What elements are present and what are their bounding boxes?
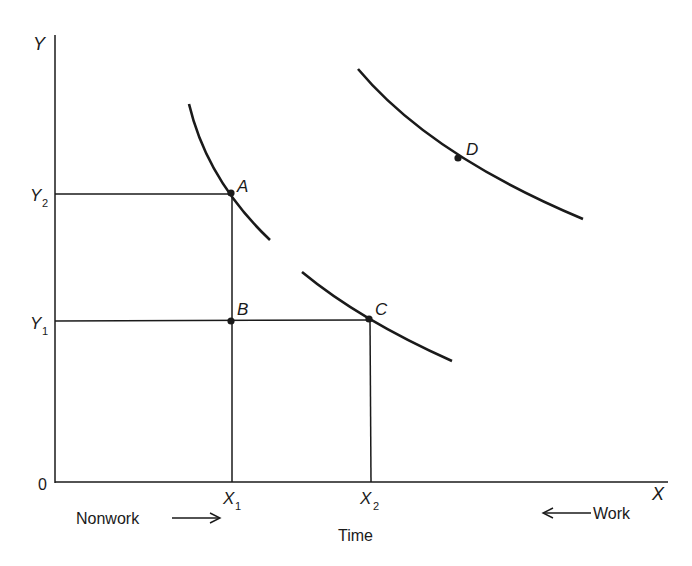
point-a-label: A bbox=[236, 177, 248, 196]
point-a-dot bbox=[227, 189, 234, 196]
svg-text:2: 2 bbox=[373, 500, 379, 512]
y2-tick-label: Y 2 bbox=[30, 186, 48, 209]
x2-guide-line bbox=[370, 320, 371, 482]
svg-text:X: X bbox=[359, 489, 372, 508]
x1-tick-label: X 1 bbox=[222, 489, 241, 512]
nonwork-label: Nonwork bbox=[76, 510, 140, 527]
y-axis-label: Y bbox=[33, 34, 47, 54]
point-b-dot bbox=[227, 317, 234, 324]
point-d-label: D bbox=[466, 140, 478, 159]
point-c-dot bbox=[365, 315, 372, 322]
indifference-curve-diagram: A B C D Y X 0 Y 2 Y 1 X 1 X 2 Nonwork Wo… bbox=[0, 0, 692, 566]
svg-text:2: 2 bbox=[42, 197, 48, 209]
indifference-curve-a bbox=[189, 104, 270, 240]
svg-text:1: 1 bbox=[235, 500, 241, 512]
left-arrow-icon bbox=[543, 508, 591, 518]
x2-tick-label: X 2 bbox=[359, 489, 379, 512]
work-label: Work bbox=[593, 505, 631, 522]
svg-text:X: X bbox=[222, 489, 235, 508]
point-d-dot bbox=[454, 154, 461, 161]
svg-text:1: 1 bbox=[42, 325, 48, 337]
x-axis-label: X bbox=[651, 484, 665, 504]
point-b-label: B bbox=[237, 300, 248, 319]
point-c-label: C bbox=[375, 300, 388, 319]
time-axis-title: Time bbox=[338, 527, 373, 544]
y1-tick-label: Y 1 bbox=[30, 314, 48, 337]
y1-guide-line bbox=[55, 320, 370, 321]
origin-label: 0 bbox=[38, 476, 47, 493]
right-arrow-icon bbox=[172, 513, 220, 523]
